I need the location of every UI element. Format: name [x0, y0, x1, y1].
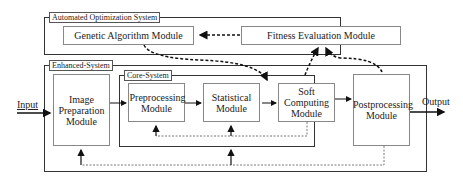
soft-to-fitness-arrow — [305, 48, 318, 75]
post-to-fitness-arrow — [326, 48, 382, 72]
enhanced-feedback-line — [81, 146, 384, 165]
connector-layer — [0, 0, 463, 186]
genetic-to-core-arrow — [144, 45, 267, 80]
